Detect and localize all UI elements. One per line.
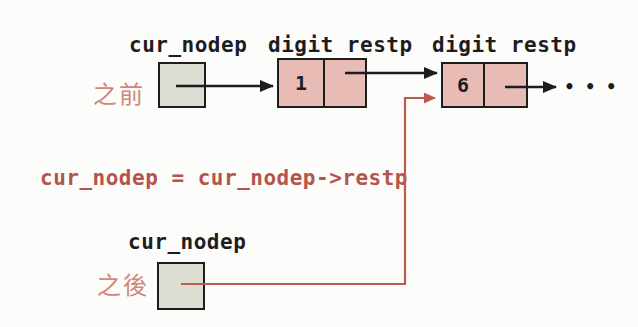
node1-header: digit restp [268, 33, 413, 57]
node2-header: digit restp [432, 33, 577, 57]
list-node-2: 6 [441, 62, 528, 108]
linked-list-figure: cur_nodep digit restp digit restp 之前 1 6… [0, 0, 638, 327]
after-state-label: 之後 [97, 266, 149, 301]
pointer-label-top: cur_nodep [129, 33, 247, 57]
node2-digit-cell: 6 [443, 64, 485, 106]
pointer-box-after [157, 262, 205, 310]
node2-restp-cell [485, 64, 526, 106]
pointer-box-before [158, 62, 206, 108]
pointer-label-bottom: cur_nodep [128, 230, 246, 254]
pointer-arrow-after [181, 98, 435, 284]
list-continues-ellipsis: ••• [564, 77, 627, 97]
before-state-label: 之前 [93, 75, 145, 110]
list-node-1: 1 [277, 58, 367, 108]
node1-restp-cell [325, 60, 365, 106]
assignment-code: cur_nodep = cur_nodep->restp [40, 166, 408, 190]
node1-digit-cell: 1 [279, 60, 325, 106]
